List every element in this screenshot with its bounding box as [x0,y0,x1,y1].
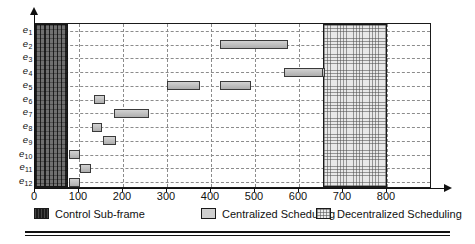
legend-swatch-centralized-scheduling [201,208,216,219]
x-axis-line [34,188,446,189]
task-bar-e2 [220,40,288,49]
x-tick-mark-200 [122,188,123,192]
legend-swatch-decentralized-scheduling [316,208,331,219]
gridline-vertical [167,24,168,187]
task-bar-e12 [69,178,80,187]
y-tick-label-e1: e1 [23,25,32,35]
x-tick-mark-100 [78,188,79,192]
task-bar-e4r [284,68,324,77]
chart-legend: Control Sub-frameCentralized SchedulingD… [34,206,464,222]
y-tick-label-e3: e3 [23,52,32,62]
task-bar-e10 [69,150,80,159]
gridline-vertical [123,24,124,187]
task-bar-e11 [80,164,91,173]
y-tick-label-e6: e6 [23,94,32,104]
x-tick-mark-400 [210,188,211,192]
gridline-vertical [79,24,80,187]
legend-label-decentralized-scheduling: Decentralized Scheduling [337,208,462,220]
gridline-vertical [299,24,300,187]
y-tick-label-e2: e2 [23,39,32,49]
y-axis-tick-labels: e1e2e3e4e5e6e7e8e9e10e11e12 [0,23,32,188]
x-tick-mark-600 [298,188,299,192]
gridline-vertical [387,24,388,187]
task-bar-e8 [92,123,102,132]
x-axis-tick-labels: 0100200300400500600700800 [0,190,475,206]
x-tick-mark-0 [34,188,35,192]
y-tick-label-e11: e11 [19,162,32,172]
y-tick-label-e12: e12 [19,176,32,186]
y-tick-label-e9: e9 [23,135,32,145]
y-axis-line [34,14,35,189]
task-bar-e9 [103,136,115,145]
legend-item-control-sub-frame: Control Sub-frame [34,206,145,221]
gridline-vertical [211,24,212,187]
y-tick-label-e10: e10 [19,149,32,159]
y-tick-label-e8: e8 [23,121,32,131]
legend-item-decentralized-scheduling: Decentralized Scheduling [316,206,462,221]
bottom-divider [25,231,450,233]
control-sub-frame-block [35,24,68,187]
y-tick-label-e4: e4 [23,66,32,76]
y-axis-arrow-icon [30,7,38,15]
task-bar-e5b [167,81,200,90]
x-tick-mark-800 [386,188,387,192]
x-tick-mark-500 [254,188,255,192]
legend-label-control-sub-frame: Control Sub-frame [55,208,145,220]
plot-area [34,23,431,188]
decentralized-window-block [323,24,387,187]
bottom-divider-thin [25,235,450,236]
task-bar-e5 [220,81,251,90]
x-tick-mark-300 [166,188,167,192]
x-tick-mark-700 [342,188,343,192]
y-tick-label-e5: e5 [23,80,32,90]
legend-swatch-control-sub-frame [34,208,49,219]
task-bar-e6 [94,95,104,104]
task-bar-e7 [114,109,149,118]
y-tick-label-e7: e7 [23,107,32,117]
gantt-chart-figure: e1e2e3e4e5e6e7e8e9e10e11e12 010020030040… [0,0,475,244]
